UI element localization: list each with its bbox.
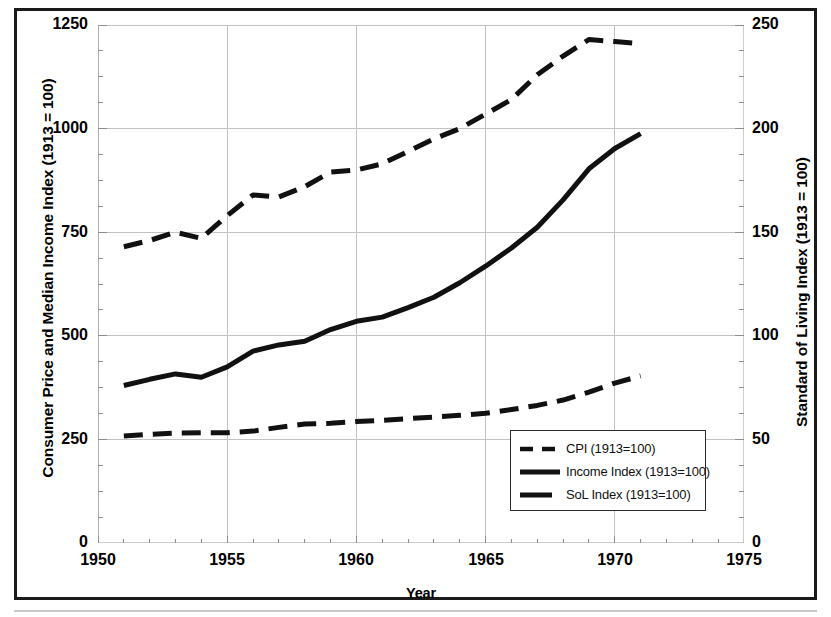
y-right-tick-200: 200	[752, 119, 826, 137]
y-right-tick-100: 100	[752, 326, 826, 344]
y-right-tick-50: 50	[752, 430, 826, 448]
legend-label-cpi: CPI (1913=100)	[566, 441, 655, 456]
y-right-tick-0: 0	[752, 533, 826, 551]
series-line-income	[124, 134, 641, 386]
chart-figure: 1250 1000 750 500 250 0 250 200 150 100 …	[0, 0, 831, 617]
legend-item-cpi: CPI (1913=100)	[511, 437, 705, 460]
series-line-sol	[124, 40, 641, 247]
x-axis-title: Year	[98, 585, 744, 601]
legend-item-sol: SoL Index (1913=100)	[511, 483, 705, 506]
figure-bottom-rule	[14, 610, 817, 612]
x-tick-1950: 1950	[53, 551, 143, 569]
series-line-cpi	[124, 376, 641, 436]
legend-swatch-solid-short-icon	[519, 488, 561, 502]
y-axis-right-title: Standard of Living Index (1913 = 100)	[793, 12, 811, 572]
data-series-layer	[124, 40, 641, 437]
x-tick-1955: 1955	[182, 551, 272, 569]
x-tick-1970: 1970	[570, 551, 660, 569]
x-tick-1960: 1960	[311, 551, 401, 569]
y-axis-left-title: Consumer Price and Median Income Index (…	[39, 0, 57, 558]
x-tick-1965: 1965	[441, 551, 531, 569]
legend-label-income: Income Index (1913=100)	[566, 464, 710, 479]
y-right-tick-150: 150	[752, 223, 826, 241]
x-tick-1975: 1975	[699, 551, 789, 569]
legend-swatch-solid-icon	[519, 465, 561, 479]
legend-swatch-dashed-icon	[519, 442, 561, 456]
y-right-tick-250: 250	[752, 15, 826, 33]
legend-label-sol: SoL Index (1913=100)	[566, 487, 691, 502]
chart-legend: CPI (1913=100) Income Index (1913=100) S…	[510, 430, 706, 511]
legend-item-income: Income Index (1913=100)	[511, 460, 705, 483]
